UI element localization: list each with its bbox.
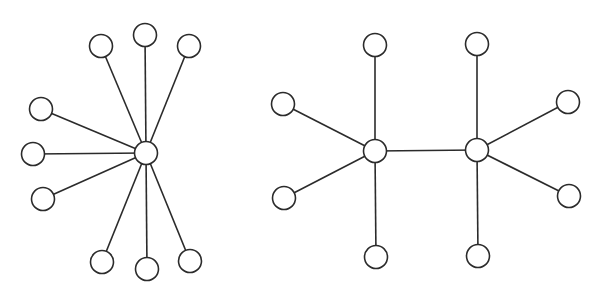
star-graph xyxy=(22,24,202,281)
node-l5 xyxy=(22,143,45,166)
edge-hub-l3 xyxy=(146,46,189,153)
edge-h1-a2 xyxy=(283,104,375,151)
node-l8 xyxy=(136,258,159,281)
edge-hub-l2 xyxy=(145,35,146,153)
node-l3 xyxy=(178,35,201,58)
node-a4 xyxy=(365,246,388,269)
edge-h2-b3 xyxy=(477,150,569,196)
node-b2 xyxy=(557,91,580,114)
edge-hub-l9 xyxy=(146,153,190,261)
node-a2 xyxy=(272,93,295,116)
node-l2 xyxy=(134,24,157,47)
double-star-graph xyxy=(272,33,581,269)
edge-h1-h2 xyxy=(375,150,477,151)
node-l1 xyxy=(90,35,113,58)
node-b4 xyxy=(467,245,490,268)
edge-hub-l8 xyxy=(146,153,147,269)
edge-h1-a3 xyxy=(284,151,375,198)
edge-h1-a4 xyxy=(375,151,376,257)
node-a3 xyxy=(273,187,296,210)
node-l7 xyxy=(91,251,114,274)
node-b3 xyxy=(558,185,581,208)
node-h1 xyxy=(364,140,387,163)
edge-hub-l5 xyxy=(33,153,146,154)
node-hub xyxy=(135,142,158,165)
star-graph-edges xyxy=(33,35,190,269)
edge-h2-b4 xyxy=(477,150,478,256)
node-a1 xyxy=(364,34,387,57)
star-graph-nodes xyxy=(22,24,202,281)
node-h2 xyxy=(466,139,489,162)
node-l4 xyxy=(30,98,53,121)
node-l9 xyxy=(179,250,202,273)
double-star-graph-edges xyxy=(283,44,569,257)
graph-diagram-canvas xyxy=(0,0,607,294)
node-l6 xyxy=(32,188,55,211)
edge-h2-b2 xyxy=(477,102,568,150)
node-b1 xyxy=(466,33,489,56)
